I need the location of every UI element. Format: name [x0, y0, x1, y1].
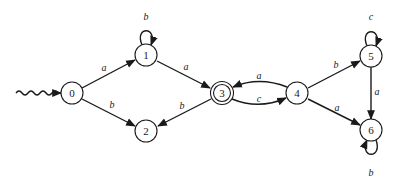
edge-5-5-loop — [365, 32, 377, 46]
svg-text:2: 2 — [143, 125, 149, 137]
state-3-accepting: 3 — [211, 82, 234, 105]
edge-1-1-loop — [140, 31, 152, 45]
edge-0-2 — [82, 99, 135, 126]
edge-label-0-1: a — [102, 62, 107, 73]
edge-0-1 — [82, 60, 135, 88]
edge-label-4-3: a — [257, 70, 262, 81]
edge-label-1-3: a — [184, 61, 189, 72]
edge-label-3-4: c — [257, 93, 262, 104]
edge-label-3-2: b — [180, 100, 185, 111]
state-1: 1 — [135, 44, 157, 66]
edge-label-5-5: c — [369, 11, 374, 22]
state-2: 2 — [135, 120, 157, 142]
svg-text:0: 0 — [69, 87, 75, 99]
automaton-diagram: a b b a b c a b a c a b 0 1 2 3 — [0, 0, 396, 183]
edge-label-4-6: a — [335, 102, 340, 113]
edge-label-4-5: b — [334, 59, 339, 70]
svg-text:3: 3 — [219, 87, 225, 99]
edge-label-0-2: b — [110, 99, 115, 110]
edge-label-6-6: b — [369, 167, 374, 178]
state-0: 0 — [61, 82, 83, 104]
edge-6-6-loop — [365, 140, 377, 154]
edge-3-2 — [158, 99, 211, 126]
edge-label-1-1: b — [144, 11, 149, 22]
svg-text:6: 6 — [368, 124, 374, 136]
state-4: 4 — [286, 82, 308, 104]
edge-label-5-6: a — [375, 86, 380, 97]
state-6: 6 — [360, 119, 382, 141]
svg-text:5: 5 — [368, 50, 374, 62]
state-5: 5 — [360, 45, 382, 67]
edge-4-3 — [233, 82, 287, 88]
svg-text:1: 1 — [143, 49, 149, 61]
svg-text:4: 4 — [294, 87, 300, 99]
start-arrow — [16, 91, 61, 95]
